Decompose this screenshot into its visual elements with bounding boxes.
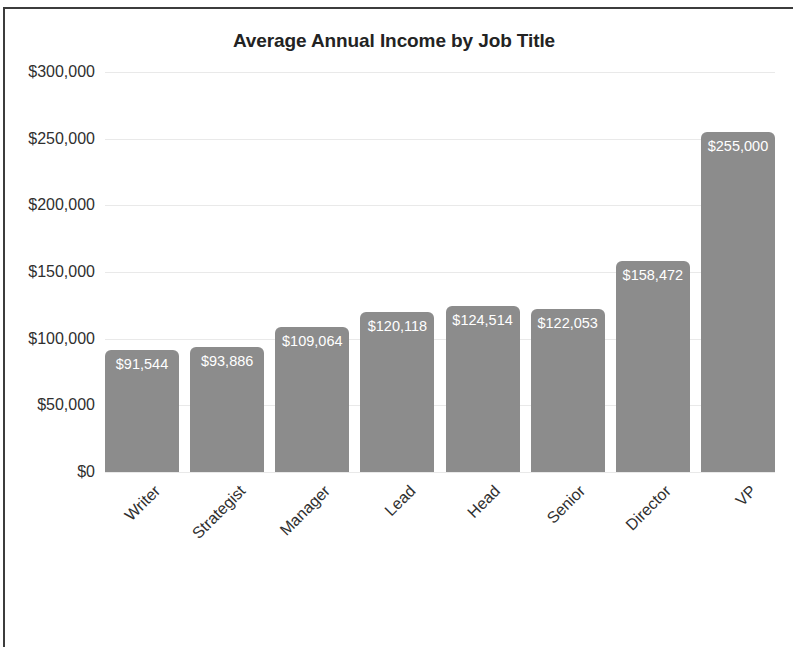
bar-value-label: $158,472 xyxy=(616,267,690,283)
y-axis-tick-label: $150,000 xyxy=(0,263,95,281)
x-axis-tick-label: Manager xyxy=(277,482,334,539)
bar[interactable]: $120,118 xyxy=(360,312,434,472)
bar-slot: $158,472 xyxy=(616,72,690,472)
bar-slot: $124,514 xyxy=(446,72,520,472)
x-axis-tick-label: Head xyxy=(465,482,505,522)
bar-value-label: $255,000 xyxy=(701,138,775,154)
chart-title: Average Annual Income by Job Title xyxy=(0,30,788,52)
bar-value-label: $124,514 xyxy=(446,312,520,328)
x-axis-tick: Senior xyxy=(531,476,605,566)
bar-slot: $120,118 xyxy=(360,72,434,472)
bar[interactable]: $91,544 xyxy=(105,350,179,472)
gridline xyxy=(105,472,775,473)
bar-value-label: $93,886 xyxy=(190,353,264,369)
bar[interactable]: $255,000 xyxy=(701,132,775,472)
x-axis-tick-label: Senior xyxy=(544,482,589,527)
x-axis-tick: Head xyxy=(446,476,520,566)
x-axis: WriterStrategistManagerLeadHeadSeniorDir… xyxy=(105,476,775,566)
bar-slot: $122,053 xyxy=(531,72,605,472)
y-axis-tick-label: $50,000 xyxy=(0,396,95,414)
bar-slot: $93,886 xyxy=(190,72,264,472)
x-axis-tick: Manager xyxy=(275,476,349,566)
bar[interactable]: $122,053 xyxy=(531,309,605,472)
x-axis-tick-label: Strategist xyxy=(188,482,249,543)
bar[interactable]: $124,514 xyxy=(446,306,520,472)
x-axis-tick: Strategist xyxy=(190,476,264,566)
y-axis-tick-label: $300,000 xyxy=(0,63,95,81)
y-axis-tick-label: $0 xyxy=(0,463,95,481)
bar[interactable]: $158,472 xyxy=(616,261,690,472)
bar-value-label: $109,064 xyxy=(275,333,349,349)
bar-slot: $255,000 xyxy=(701,72,775,472)
x-axis-tick: Director xyxy=(616,476,690,566)
x-axis-tick: VP xyxy=(701,476,775,566)
y-axis: $0$50,000$100,000$150,000$200,000$250,00… xyxy=(0,72,95,472)
bar-series: $91,544$93,886$109,064$120,118$124,514$1… xyxy=(105,72,775,472)
bar[interactable]: $109,064 xyxy=(275,327,349,472)
x-axis-tick-label: Writer xyxy=(121,482,164,525)
y-axis-tick-label: $200,000 xyxy=(0,196,95,214)
bar-value-label: $120,118 xyxy=(360,318,434,334)
plot-area: $91,544$93,886$109,064$120,118$124,514$1… xyxy=(105,72,775,472)
x-axis-tick-label: Lead xyxy=(381,482,419,520)
x-axis-tick: Writer xyxy=(105,476,179,566)
bar-value-label: $122,053 xyxy=(531,315,605,331)
y-axis-tick-label: $100,000 xyxy=(0,330,95,348)
y-axis-tick-label: $250,000 xyxy=(0,130,95,148)
x-axis-tick-label: Director xyxy=(622,482,674,534)
bar-slot: $91,544 xyxy=(105,72,179,472)
bar-slot: $109,064 xyxy=(275,72,349,472)
bar-value-label: $91,544 xyxy=(105,356,179,372)
bar[interactable]: $93,886 xyxy=(190,347,264,472)
x-axis-tick-label: VP xyxy=(732,482,760,510)
x-axis-tick: Lead xyxy=(360,476,434,566)
